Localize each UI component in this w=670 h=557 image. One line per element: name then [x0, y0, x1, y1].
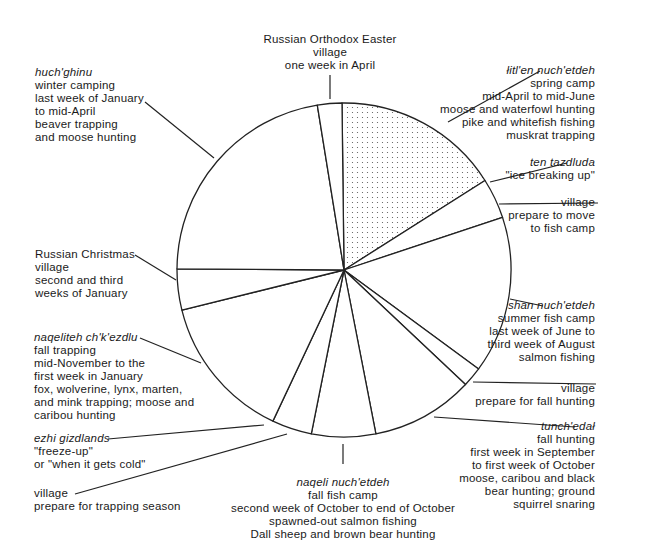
label-line: Russian Christmas	[35, 248, 135, 261]
label-line: third week of August	[487, 338, 595, 351]
label-fall-fish-camp: naqeli nuch'etdeh fall fish camp second …	[193, 476, 493, 541]
label-line: fall hunting	[459, 433, 595, 446]
label-line: village	[475, 382, 595, 395]
label-native-name: shan nuch'etdeh	[487, 299, 595, 312]
label-line: and moose hunting	[35, 131, 144, 144]
label-village-prepare-fall-hunting: village prepare for fall hunting	[475, 382, 595, 408]
label-freeze-up: ezhi gizdlands "freeze-up" or "when it g…	[34, 432, 146, 471]
label-line: "ice breaking up"	[505, 169, 595, 182]
label-russian-christmas: Russian Christmas village second and thi…	[35, 248, 135, 300]
label-line: to first week of October	[459, 459, 595, 472]
label-native-name: ten tazdluda	[505, 156, 595, 169]
label-line: beaver trapping	[35, 118, 144, 131]
label-ice-breaking-up: ten tazdluda "ice breaking up"	[505, 156, 595, 182]
label-line: prepare for fall hunting	[475, 395, 595, 408]
label-line: prepare for trapping season	[34, 500, 181, 513]
label-line: salmon fishing	[487, 351, 595, 364]
label-line: spawned-out salmon fishing	[193, 515, 493, 528]
label-line: "freeze-up"	[34, 445, 146, 458]
leader-winter	[145, 102, 214, 158]
label-line: village	[250, 46, 410, 59]
label-native-name: ezhi gizdlands	[34, 432, 146, 445]
leader-christmas	[135, 255, 176, 280]
label-winter-camping: huch'ghinu winter camping last week of J…	[35, 66, 144, 144]
label-line: second and third	[35, 274, 135, 287]
label-native-name: łitl'en nuch'etdeh	[440, 64, 595, 77]
label-fall-trapping: naqeliteh ch'k'ezdlu fall trapping mid-N…	[34, 331, 194, 422]
label-line: Russian Orthodox Easter	[250, 33, 410, 46]
label-line: first week in January	[34, 370, 194, 383]
label-line: one week in April	[250, 59, 410, 72]
label-village-prepare-trapping: village prepare for trapping season	[34, 487, 181, 513]
label-line: first week in September	[459, 446, 595, 459]
label-line: village	[35, 261, 135, 274]
label-line: muskrat trapping	[440, 129, 595, 142]
label-line: Dall sheep and brown bear hunting	[193, 528, 493, 541]
label-line: mid-November to the	[34, 357, 194, 370]
label-line: village	[508, 196, 595, 209]
label-line: summer fish camp	[487, 312, 595, 325]
label-line: to fish camp	[508, 222, 595, 235]
pie-wedges	[177, 103, 511, 437]
label-line: prepare to move	[508, 209, 595, 222]
label-summer-fish-camp: shan nuch'etdeh summer fish camp last we…	[487, 299, 595, 364]
label-line: last week of June to	[487, 325, 595, 338]
label-russian-orthodox-easter: Russian Orthodox Easter village one week…	[250, 33, 410, 72]
label-line: moose and waterfowl hunting	[440, 103, 595, 116]
label-line: second week of October to end of October	[193, 502, 493, 515]
label-native-name: naqeli nuch'etdeh	[193, 476, 493, 489]
label-native-name: huch'ghinu	[35, 66, 144, 79]
label-line: caribou hunting	[34, 409, 194, 422]
label-line: pike and whitefish fishing	[440, 116, 595, 129]
label-line: weeks of January	[35, 287, 135, 300]
label-line: village	[34, 487, 181, 500]
wedge-winter-camping	[177, 105, 344, 270]
label-native-name: tunch'edał	[459, 420, 595, 433]
label-spring-camp: łitl'en nuch'etdeh spring camp mid-April…	[440, 64, 595, 142]
label-line: fox, wolverine, lynx, marten,	[34, 383, 194, 396]
label-line: spring camp	[440, 77, 595, 90]
label-line: or "when it gets cold"	[34, 458, 146, 471]
label-line: and mink trapping; moose and	[34, 396, 194, 409]
label-line: fall trapping	[34, 344, 194, 357]
label-line: to mid-April	[35, 105, 144, 118]
label-village-prepare-fish-camp: village prepare to move to fish camp	[508, 196, 595, 235]
label-line: mid-April to mid-June	[440, 90, 595, 103]
label-line: last week of January	[35, 92, 144, 105]
label-line: winter camping	[35, 79, 144, 92]
label-native-name: naqeliteh ch'k'ezdlu	[34, 331, 194, 344]
label-line: fall fish camp	[193, 489, 493, 502]
